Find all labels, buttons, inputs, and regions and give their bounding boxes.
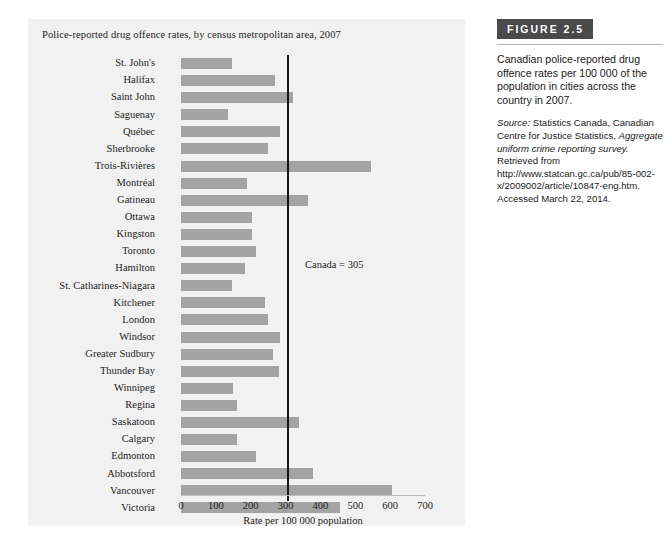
category-label: Kitchener bbox=[23, 298, 155, 309]
bar bbox=[181, 263, 245, 274]
bar bbox=[181, 109, 228, 120]
category-label: Winnipeg bbox=[23, 383, 155, 394]
bar-track bbox=[181, 195, 436, 206]
chart-bar-row: Trois-Rivières bbox=[28, 158, 465, 175]
bar bbox=[181, 178, 247, 189]
source-part-two: Retrieved from http://www.statcan.gc.ca/… bbox=[497, 155, 655, 204]
bar-track bbox=[181, 143, 436, 154]
badge-divider bbox=[497, 44, 663, 45]
bar bbox=[181, 75, 275, 86]
bar-track bbox=[181, 434, 436, 445]
category-label: Abbotsford bbox=[23, 469, 155, 480]
chart-bar-row: Thunder Bay bbox=[28, 363, 465, 380]
chart-bar-row: Vancouver bbox=[28, 482, 465, 499]
chart-bar-row: St. Catharines-Niagara bbox=[28, 277, 465, 294]
caption-body: Canadian police-reported drug offence ra… bbox=[497, 53, 663, 206]
chart-bar-row: Edmonton bbox=[28, 448, 465, 465]
bar bbox=[181, 383, 233, 394]
chart-panel: Police-reported drug offence rates, by c… bbox=[28, 19, 465, 526]
category-label: Hamilton bbox=[23, 263, 155, 274]
category-label: Sherbrooke bbox=[23, 144, 155, 155]
x-tick-label: 0 bbox=[178, 500, 183, 511]
bar bbox=[181, 366, 279, 377]
chart-bar-row: Kingston bbox=[28, 226, 465, 243]
chart-bar-row: Halifax bbox=[28, 72, 465, 89]
x-tick-label: 400 bbox=[313, 500, 329, 511]
canada-reference-line bbox=[287, 55, 288, 501]
chart-bar-row: London bbox=[28, 311, 465, 328]
bar-track bbox=[181, 366, 436, 377]
bar-track bbox=[181, 58, 436, 69]
bar bbox=[181, 126, 280, 137]
bar-track bbox=[181, 314, 436, 325]
bar bbox=[181, 92, 293, 103]
chart-bar-row: Ottawa bbox=[28, 209, 465, 226]
category-label: Thunder Bay bbox=[23, 366, 155, 377]
bar bbox=[181, 58, 232, 69]
chart-bar-row: Calgary bbox=[28, 431, 465, 448]
bar-track bbox=[181, 332, 436, 343]
bar-track bbox=[181, 212, 436, 223]
x-tick-label: 600 bbox=[382, 500, 398, 511]
bar-track bbox=[181, 297, 436, 308]
chart-bar-row: Hamilton bbox=[28, 260, 465, 277]
category-label: Toronto bbox=[23, 246, 155, 257]
chart-bar-row: Kitchener bbox=[28, 294, 465, 311]
chart-bar-row: Sherbrooke bbox=[28, 140, 465, 157]
canada-reference-label: Canada = 305 bbox=[305, 259, 363, 270]
category-label: Saskatoon bbox=[23, 417, 155, 428]
bar bbox=[181, 195, 308, 206]
category-label: St. Catharines-Niagara bbox=[23, 281, 155, 292]
x-tick-label: 200 bbox=[243, 500, 259, 511]
plot-area: St. John'sHalifaxSaint JohnSaguenayQuébe… bbox=[28, 55, 465, 495]
chart-bar-row: Abbotsford bbox=[28, 465, 465, 482]
category-label: Saint John bbox=[23, 92, 155, 103]
bar bbox=[181, 434, 237, 445]
figure-number-badge: FIGURE 2.5 bbox=[497, 19, 593, 39]
category-label: Regina bbox=[23, 400, 155, 411]
x-tick-label: 100 bbox=[208, 500, 224, 511]
bar bbox=[181, 349, 273, 360]
chart-bar-row: Winnipeg bbox=[28, 380, 465, 397]
chart-bar-row: Greater Sudbury bbox=[28, 346, 465, 363]
chart-bar-row: Québec bbox=[28, 123, 465, 140]
x-tick-label: 300 bbox=[278, 500, 294, 511]
chart-bar-row: Montréal bbox=[28, 175, 465, 192]
bar-track bbox=[181, 417, 436, 428]
category-label: Saguenay bbox=[23, 110, 155, 121]
category-label: Calgary bbox=[23, 434, 155, 445]
x-axis-line bbox=[181, 495, 425, 496]
category-label: Kingston bbox=[23, 229, 155, 240]
category-label: Trois-Rivières bbox=[23, 161, 155, 172]
category-label: London bbox=[23, 315, 155, 326]
bar-track bbox=[181, 468, 436, 479]
category-label: Windsor bbox=[23, 332, 155, 343]
category-label: St. John's bbox=[23, 58, 155, 69]
bar bbox=[181, 280, 232, 291]
figure-caption-panel: FIGURE 2.5 Canadian police-reported drug… bbox=[497, 19, 663, 249]
chart-bar-row: Saint John bbox=[28, 89, 465, 106]
bar-track bbox=[181, 349, 436, 360]
category-label: Gatineau bbox=[23, 195, 155, 206]
category-label: Montréal bbox=[23, 178, 155, 189]
bar bbox=[181, 314, 268, 325]
category-label: Ottawa bbox=[23, 212, 155, 223]
bar-track bbox=[181, 161, 436, 172]
bar-track bbox=[181, 75, 436, 86]
chart-bar-row: Toronto bbox=[28, 243, 465, 260]
bar bbox=[181, 332, 280, 343]
bar-track bbox=[181, 126, 436, 137]
category-label: Edmonton bbox=[23, 451, 155, 462]
bar-track bbox=[181, 451, 436, 462]
bar-track bbox=[181, 383, 436, 394]
chart-bar-row: Gatineau bbox=[28, 192, 465, 209]
bar bbox=[181, 212, 252, 223]
bar-track bbox=[181, 178, 436, 189]
bar-track bbox=[181, 109, 436, 120]
bar bbox=[181, 246, 256, 257]
bar bbox=[181, 143, 268, 154]
category-label: Halifax bbox=[23, 75, 155, 86]
chart-bar-row: St. John's bbox=[28, 55, 465, 72]
caption-source: Source: Statistics Canada, Canadian Cent… bbox=[497, 117, 663, 205]
bar bbox=[181, 161, 371, 172]
